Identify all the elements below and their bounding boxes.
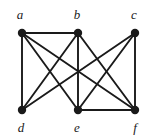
vertex-label-b: b bbox=[74, 8, 81, 21]
graph-vertex-d bbox=[18, 106, 26, 114]
graph-vertex-c bbox=[131, 29, 139, 37]
vertex-label-e: e bbox=[74, 121, 80, 134]
vertex-label-a: a bbox=[17, 8, 24, 21]
graph-vertex-a bbox=[18, 29, 26, 37]
graph-vertex-e bbox=[74, 106, 82, 114]
vertex-label-c: c bbox=[131, 8, 137, 21]
vertex-label-f: f bbox=[133, 121, 137, 134]
graph-vertex-f bbox=[131, 106, 139, 114]
graph-figure: abcdef bbox=[0, 0, 154, 135]
edge-layer bbox=[22, 33, 135, 110]
graph-vertex-b bbox=[74, 29, 82, 37]
vertex-label-d: d bbox=[18, 121, 25, 134]
